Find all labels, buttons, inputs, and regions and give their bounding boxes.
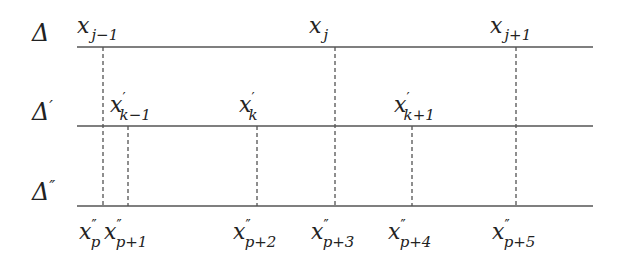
point-label: xj+1 — [490, 13, 531, 44]
row-label: Δ — [31, 19, 49, 47]
row-delta: Δxj−1xjxj+1 — [31, 13, 593, 47]
point-label: xj−1 — [77, 13, 118, 44]
point-label: x″p — [79, 217, 101, 251]
row-label: Δ′ — [31, 97, 53, 126]
partition-rows: Δxj−1xjxj+1Δ′x′k−1x′kx′k+1Δ″x″px″p+1x″p+… — [31, 13, 593, 251]
row-delta-prime: Δ′x′k−1x′kx′k+1 — [31, 90, 593, 126]
point-label: x″p+2 — [233, 217, 276, 251]
point-label: x″p+5 — [492, 217, 535, 251]
point-label: x′k — [239, 90, 258, 124]
row-label: Δ″ — [31, 177, 55, 206]
point-label: x″p+4 — [388, 217, 431, 251]
partition-diagram: Δxj−1xjxj+1Δ′x′k−1x′kx′k+1Δ″x″px″p+1x″p+… — [0, 0, 629, 263]
point-label: x′k+1 — [394, 90, 435, 124]
point-label: xj — [309, 13, 328, 44]
point-label: x″p+3 — [311, 217, 354, 251]
point-label: x′k−1 — [110, 90, 151, 124]
row-delta-double-prime: Δ″x″px″p+1x″p+2x″p+3x″p+4x″p+5 — [31, 177, 593, 251]
point-label: x″p+1 — [104, 217, 147, 251]
